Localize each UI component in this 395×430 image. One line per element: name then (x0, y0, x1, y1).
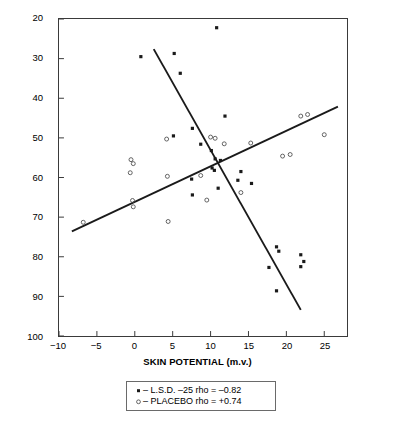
data-point (277, 250, 280, 253)
trend-line (72, 107, 338, 232)
plot-canvas (59, 19, 347, 336)
data-point (179, 72, 182, 75)
data-point (306, 113, 310, 117)
data-point (199, 143, 202, 146)
data-point (215, 26, 218, 29)
data-point (165, 174, 169, 178)
data-point (210, 149, 213, 152)
x-axis-title: SKIN POTENTIAL (m.v.) (0, 356, 395, 367)
data-point (219, 159, 222, 162)
data-point (275, 289, 278, 292)
plot-area (58, 18, 348, 337)
data-point (222, 142, 226, 146)
data-point (131, 162, 135, 166)
data-point (131, 205, 135, 209)
scatter-plot-figure: TWO-FLASH THRESHOLD (m.secs) 20304050607… (0, 0, 395, 430)
data-point (131, 198, 135, 202)
x-tick-label: 20 (267, 341, 307, 351)
open-circle-marker (134, 397, 143, 406)
legend-row-placebo: – PLACEBO rho = +0.74 (134, 396, 269, 407)
data-point (213, 136, 217, 140)
x-tick-label: 10 (191, 341, 231, 351)
data-point (129, 158, 133, 162)
y-tick-label: 90 (9, 292, 43, 302)
data-point (239, 170, 242, 173)
y-tick-label: 20 (9, 13, 43, 23)
legend-label-placebo: – PLACEBO rho = +0.74 (143, 396, 242, 407)
data-point (250, 182, 253, 185)
data-point (288, 153, 292, 157)
data-point (173, 52, 176, 55)
data-point (299, 114, 303, 118)
y-tick-label: 30 (9, 53, 43, 63)
y-tick-label: 60 (9, 173, 43, 183)
data-point (139, 55, 142, 58)
data-point (267, 266, 270, 269)
data-point (299, 253, 302, 256)
x-tick-label: 15 (229, 341, 269, 351)
y-tick-label: 70 (9, 212, 43, 222)
data-point (299, 265, 302, 268)
data-point (166, 219, 170, 223)
x-tick-label: 0 (114, 341, 154, 351)
trend-line (154, 49, 301, 310)
data-point (190, 177, 193, 180)
legend-label-lsd: – L.S.D. –25 rho = –0.82 (143, 385, 241, 396)
data-point (205, 198, 209, 202)
x-tick-label: −5 (76, 341, 116, 351)
data-point (249, 141, 253, 145)
data-point (199, 174, 203, 178)
data-point (81, 220, 85, 224)
data-point (281, 154, 285, 158)
data-point (302, 260, 305, 263)
filled-square-marker (134, 386, 143, 395)
x-tick-label: 5 (152, 341, 192, 351)
data-point (223, 114, 226, 117)
data-point (213, 169, 216, 172)
y-tick-label: 40 (9, 93, 43, 103)
legend-row-lsd: – L.S.D. –25 rho = –0.82 (134, 385, 269, 396)
data-point (191, 193, 194, 196)
data-point (165, 137, 169, 141)
data-point (322, 133, 326, 137)
chart-legend: – L.S.D. –25 rho = –0.82 – PLACEBO rho =… (126, 381, 276, 411)
y-tick-label: 80 (9, 252, 43, 262)
data-point (214, 157, 217, 160)
data-point (209, 135, 213, 139)
data-point (275, 245, 278, 248)
y-tick-label: 50 (9, 133, 43, 143)
data-point (236, 179, 239, 182)
x-tick-label: 25 (305, 341, 345, 351)
x-tick-label: −10 (38, 341, 78, 351)
data-point (172, 134, 175, 137)
data-point (239, 191, 243, 195)
data-point (217, 187, 220, 190)
data-point (128, 171, 132, 175)
data-point (191, 127, 194, 130)
